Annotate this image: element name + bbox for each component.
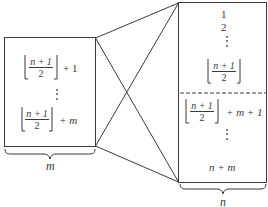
floor-denominator: 2: [35, 120, 40, 131]
floor-numerator: n + 1: [25, 108, 49, 120]
diagram-canvas: [0, 0, 268, 207]
left-brace-label: m: [46, 160, 55, 172]
floor-denominator: 2: [39, 68, 44, 79]
connector-bottom: [96, 146, 179, 182]
floor-denominator: 2: [222, 72, 227, 83]
connector-cross-down: [96, 38, 179, 182]
right-upper-line-2: 2: [221, 22, 227, 33]
right-lower-floor: n + 1 2: [189, 100, 215, 123]
right-upper-vdots: ⋮: [221, 35, 227, 47]
floor-numerator: n + 1: [29, 56, 53, 68]
right-brace: [180, 184, 266, 194]
right-lower-suffix: + m + 1: [226, 107, 263, 118]
right-upper-floor: n + 1 2: [211, 60, 237, 83]
floor-numerator: n + 1: [190, 100, 214, 112]
left-brace: [5, 149, 95, 159]
floor-numerator: n + 1: [212, 60, 236, 72]
right-lower-vdots: ⋮: [221, 128, 227, 140]
left-entry-2-suffix: + m: [59, 115, 77, 126]
left-floor-1: n + 1 2: [28, 56, 54, 79]
right-upper-line-1: 1: [221, 9, 227, 20]
left-floor-2: n + 1 2: [25, 108, 49, 131]
connector-top: [96, 3, 179, 38]
connector-cross-up: [96, 3, 179, 146]
right-lower-last: n + m: [209, 162, 235, 173]
left-vdots: ⋮: [51, 88, 57, 100]
left-box: [5, 38, 96, 147]
right-brace-label: n: [220, 196, 226, 207]
left-entry-1-suffix: + 1: [63, 63, 77, 74]
floor-denominator: 2: [200, 112, 205, 123]
